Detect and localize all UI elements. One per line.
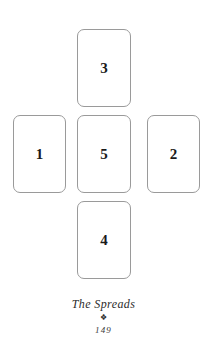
page-number: 149 [0,324,207,336]
spread-card-5-number: 5 [100,147,108,162]
spread-card-2-number: 2 [170,147,178,162]
spread-card-2[interactable]: 2 [147,115,200,193]
diamond-ornament-icon: ❖ [0,313,207,323]
spread-card-3-number: 3 [100,61,108,76]
page-footer: The Spreads ❖ 149 [0,297,207,336]
spread-card-3[interactable]: 3 [77,29,131,107]
spread-card-4-number: 4 [100,233,108,248]
spread-card-1-number: 1 [36,147,44,162]
spread-card-1[interactable]: 1 [13,115,66,193]
spread-card-4[interactable]: 4 [77,201,131,279]
book-page: 1 2 3 4 5 The Spreads ❖ 149 [0,0,207,353]
spread-card-5[interactable]: 5 [77,115,131,193]
footer-chapter-title: The Spreads [0,297,207,312]
